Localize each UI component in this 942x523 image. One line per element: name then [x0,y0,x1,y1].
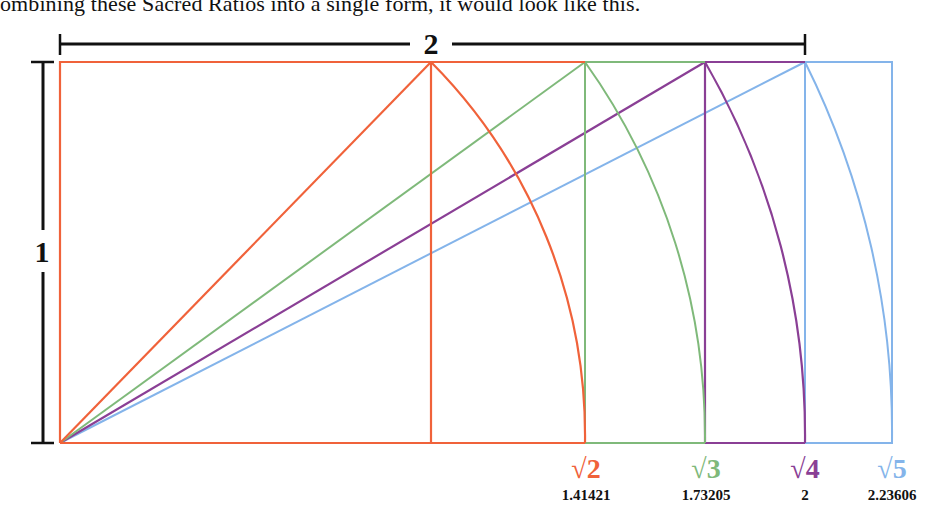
root4-value: 2 [801,487,809,503]
root2-symbol: √2 [571,453,600,484]
root2-value: 1.41421 [562,487,611,503]
root5-symbol: √5 [877,453,906,484]
width-label: 2 [424,27,439,60]
root3-value: 1.73205 [682,487,731,503]
root4-symbol: √4 [790,453,819,484]
height-label: 1 [35,235,50,268]
root5-value: 2.23606 [868,487,917,503]
root-rectangles-diagram: 2 1 √2 1.41421 [0,0,942,523]
root5-rectangle [60,62,892,443]
root-labels: √2 1.41421 √3 1.73205 √4 2 √5 2.23606 [562,453,917,503]
root3-symbol: √3 [691,453,720,484]
